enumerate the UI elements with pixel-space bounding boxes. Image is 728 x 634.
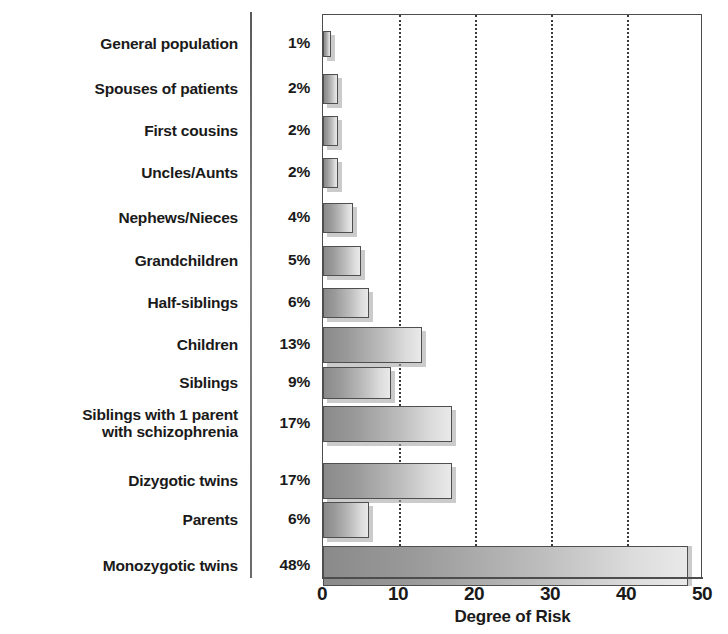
- x-tick-label: 50: [692, 583, 712, 605]
- category-label-line: Nephews/Nieces: [118, 209, 238, 226]
- value-label: 1%: [252, 34, 310, 52]
- bar: [323, 367, 391, 399]
- bar: [323, 288, 369, 318]
- bar: [323, 246, 361, 276]
- category-label: Siblings: [0, 374, 238, 391]
- category-label-line: First cousins: [144, 122, 238, 139]
- category-label-line: Children: [177, 336, 238, 353]
- category-label-line: Dizygotic twins: [128, 472, 238, 489]
- category-label: Dizygotic twins: [0, 472, 238, 489]
- bar: [323, 327, 422, 363]
- category-label-line: Spouses of patients: [95, 80, 238, 97]
- category-label: General population: [0, 35, 238, 52]
- x-tick-label: 0: [317, 583, 327, 605]
- value-label: 2%: [252, 121, 310, 139]
- value-label: 17%: [252, 414, 310, 432]
- value-label: 9%: [252, 373, 310, 391]
- value-label: 4%: [252, 208, 310, 226]
- category-label: Children: [0, 336, 238, 353]
- category-label: Half-siblings: [0, 294, 238, 311]
- bar: [323, 116, 338, 146]
- label-divider: [250, 12, 252, 578]
- value-label-column: 1%2%2%2%4%5%6%13%9%17%17%6%48%: [252, 12, 320, 578]
- x-tick-label: 20: [464, 583, 484, 605]
- category-label-line: Parents: [183, 511, 238, 528]
- x-axis-title: Degree of Risk: [322, 607, 703, 627]
- x-axis-line: [322, 577, 703, 579]
- category-label-line: Uncles/Aunts: [141, 164, 238, 181]
- category-label-line: General population: [100, 35, 238, 52]
- value-label: 6%: [252, 510, 310, 528]
- x-tick-label: 30: [540, 583, 560, 605]
- bars-group: [323, 15, 701, 578]
- bar: [323, 406, 452, 442]
- category-label: Spouses of patients: [0, 80, 238, 97]
- plot-area: [322, 14, 702, 578]
- category-label: Monozygotic twins: [0, 557, 238, 574]
- category-label-line: Siblings: [179, 374, 238, 391]
- category-label: Parents: [0, 511, 238, 528]
- risk-bar-chart: General populationSpouses of patientsFir…: [0, 0, 728, 634]
- category-label-line: Half-siblings: [148, 294, 238, 311]
- bar: [323, 31, 331, 57]
- value-label: 13%: [252, 335, 310, 353]
- x-tick-label: 10: [388, 583, 408, 605]
- category-label-column: General populationSpouses of patientsFir…: [0, 12, 250, 578]
- value-label: 2%: [252, 79, 310, 97]
- x-tick-label: 40: [616, 583, 636, 605]
- value-label: 48%: [252, 556, 310, 574]
- value-label: 5%: [252, 251, 310, 269]
- category-label: Uncles/Aunts: [0, 164, 238, 181]
- value-label: 2%: [252, 163, 310, 181]
- category-label: First cousins: [0, 122, 238, 139]
- category-label-line: Siblings with 1 parent: [82, 406, 238, 423]
- bar: [323, 203, 353, 233]
- category-label: Siblings with 1 parentwith schizophrenia: [0, 406, 238, 440]
- category-label: Nephews/Nieces: [0, 209, 238, 226]
- value-label: 17%: [252, 471, 310, 489]
- bar: [323, 158, 338, 188]
- category-label-line: with schizophrenia: [82, 423, 238, 440]
- category-label-line: Monozygotic twins: [103, 557, 238, 574]
- category-label: Grandchildren: [0, 252, 238, 269]
- bar: [323, 463, 452, 499]
- bar: [323, 502, 369, 538]
- category-label-line: Grandchildren: [135, 252, 238, 269]
- value-label: 6%: [252, 293, 310, 311]
- bar: [323, 74, 338, 104]
- bar: [323, 546, 688, 586]
